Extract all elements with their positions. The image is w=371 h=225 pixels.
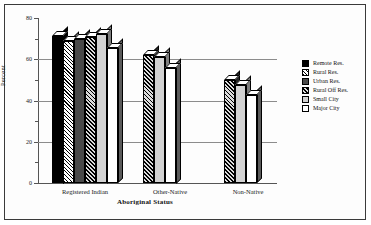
bar-other-native-rural-off-res <box>143 55 154 183</box>
legend-item-urban-res: Urban Res. <box>302 77 368 86</box>
y-tick-label-60: 60 <box>18 56 32 62</box>
bar-registered-indian-urban-res <box>74 39 85 183</box>
x-tick-label-registered-indian: Registered Indian <box>50 188 120 195</box>
bar-face <box>63 41 74 183</box>
x-tick-label-non-native: Non-Native <box>218 188 278 195</box>
legend-label-remote-res: Remote Res. <box>313 60 344 67</box>
legend-label-rural-res: Rural Res. <box>313 69 338 76</box>
legend-swatch-major-city <box>302 105 309 112</box>
y-tick-label-80: 80 <box>18 15 32 21</box>
y-tick-label-40: 40 <box>18 98 32 104</box>
bar-side <box>118 38 123 183</box>
bar-other-native-major-city <box>165 68 176 184</box>
legend-item-major-city: Major City <box>302 104 368 113</box>
bar-non-native-small-city <box>235 85 246 183</box>
bar-face <box>107 48 118 183</box>
plot-area <box>38 18 277 183</box>
legend-item-rural-off-res: Rural Off Res. <box>302 86 368 95</box>
bar-face <box>154 57 165 183</box>
bar-face <box>85 37 96 183</box>
bar-registered-indian-rural-off-res <box>85 37 96 183</box>
legend-label-major-city: Major City <box>313 105 340 112</box>
bar-face <box>224 80 235 183</box>
bar-registered-indian-rural-res <box>63 41 74 183</box>
bar-side <box>257 85 262 183</box>
x-tick-label-other-native: Other-Native <box>140 188 200 195</box>
bar-non-native-rural-off-res <box>224 80 235 183</box>
bar-face <box>246 95 257 183</box>
y-tick-label-0: 0 <box>18 180 32 186</box>
bar-side <box>176 58 181 183</box>
legend-label-urban-res: Urban Res. <box>313 78 340 85</box>
legend-label-small-city: Small City <box>313 96 339 103</box>
bar-non-native-major-city <box>246 95 257 183</box>
x-axis-title: Aboriginal Status <box>0 198 290 206</box>
legend-swatch-remote-res <box>302 60 309 67</box>
legend-swatch-urban-res <box>302 78 309 85</box>
legend-label-rural-off-res: Rural Off Res. <box>313 87 348 94</box>
bar-registered-indian-remote-res <box>52 36 63 184</box>
y-tick-label-20: 20 <box>18 139 32 145</box>
legend-swatch-small-city <box>302 96 309 103</box>
bar-face <box>74 39 85 183</box>
bar-face <box>165 68 176 184</box>
bar-registered-indian-major-city <box>107 48 118 183</box>
legend: Remote Res. Rural Res. Urban Res. Rural … <box>302 59 368 113</box>
bar-face <box>52 36 63 184</box>
legend-swatch-rural-off-res <box>302 87 309 94</box>
y-axis-title: Percent <box>0 65 6 86</box>
legend-item-small-city: Small City <box>302 95 368 104</box>
bar-other-native-small-city <box>154 57 165 183</box>
legend-item-remote-res: Remote Res. <box>302 59 368 68</box>
bar-face <box>235 85 246 183</box>
bar-face <box>96 34 107 184</box>
y-tick-0 <box>34 183 39 184</box>
legend-swatch-rural-res <box>302 69 309 76</box>
bar-face <box>143 55 154 183</box>
legend-item-rural-res: Rural Res. <box>302 68 368 77</box>
chart-figure: Percent 80 60 40 20 0 <box>0 0 371 225</box>
bar-registered-indian-small-city <box>96 34 107 184</box>
